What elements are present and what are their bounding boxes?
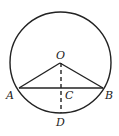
segment-OB: [60, 63, 103, 88]
label-O: O: [56, 49, 65, 62]
geometry-diagram: O A C B D: [0, 0, 119, 136]
label-A: A: [5, 89, 14, 102]
label-D: D: [55, 116, 65, 129]
segment-OA: [19, 63, 60, 88]
label-C: C: [65, 89, 74, 102]
label-B: B: [104, 89, 113, 102]
